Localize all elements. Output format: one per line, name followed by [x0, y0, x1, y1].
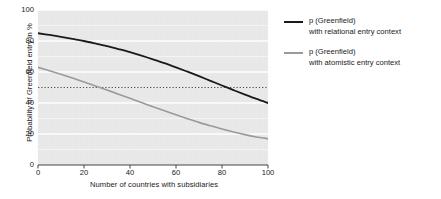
- legend-swatch-atomistic: [284, 52, 303, 54]
- x-tick-0: 0: [26, 168, 50, 177]
- legend-label-relational: p (Greenfield) with relational entry con…: [309, 16, 439, 37]
- legend-entry-atomistic: p (Greenfield) with atomistic entry cont…: [284, 47, 439, 69]
- legend-swatch-relational: [284, 21, 303, 23]
- x-tick-40: 40: [118, 168, 142, 177]
- chart-figure: 100 80 60 40 20 0 0 20 40 60 80 100 Prob…: [0, 0, 441, 199]
- legend: p (Greenfield) with relational entry con…: [284, 16, 439, 78]
- x-tick-60: 60: [164, 168, 188, 177]
- legend-label-atomistic-line2: with atomistic entry context: [309, 58, 439, 69]
- legend-label-relational-line1: p (Greenfield): [309, 16, 355, 25]
- x-tick-80: 80: [210, 168, 234, 177]
- legend-label-atomistic-line1: p (Greenfield): [309, 47, 355, 56]
- x-tick-100: 100: [256, 168, 280, 177]
- legend-label-atomistic: p (Greenfield) with atomistic entry cont…: [309, 47, 439, 68]
- legend-label-relational-line2: with relational entry context: [309, 27, 439, 38]
- x-axis-title: Number of countries with subsidiaries: [38, 180, 270, 189]
- y-axis-title: Probability of Greenfield entry in %: [25, 0, 34, 168]
- legend-entry-relational: p (Greenfield) with relational entry con…: [284, 16, 439, 38]
- x-tick-20: 20: [72, 168, 96, 177]
